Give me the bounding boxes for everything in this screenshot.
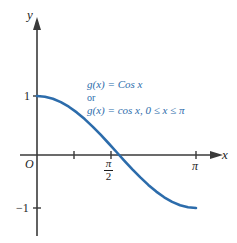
x-tick-label-pi: π: [192, 160, 198, 172]
equation-annotation: g(x) = Cos x or g(x) = cos x, 0 ≤ x ≤ π: [87, 78, 184, 117]
fraction-numerator: π: [104, 158, 113, 170]
origin-label: O: [25, 158, 34, 170]
y-tick-label-negative-1: −1: [16, 202, 29, 214]
y-axis-arrowhead: [33, 17, 41, 30]
x-tick-label-pi-over-2: π 2: [104, 158, 113, 182]
equation-line-cos-capital: g(x) = Cos x: [87, 78, 184, 91]
equation-line-or: or: [87, 91, 184, 104]
equation-line-cos-restricted: g(x) = cos x, 0 ≤ x ≤ π: [87, 104, 184, 117]
plot-canvas: [0, 0, 237, 243]
fraction-denominator: 2: [104, 171, 113, 183]
fraction-pi-over-2: π 2: [104, 158, 113, 182]
y-tick-label-1: 1: [24, 90, 30, 102]
cosine-graph-figure: y x O 1 −1 π 2 π g(x) = Cos x or g(x) = …: [0, 0, 237, 243]
axis-label-y: y: [27, 8, 33, 21]
axis-label-x: x: [222, 148, 228, 161]
